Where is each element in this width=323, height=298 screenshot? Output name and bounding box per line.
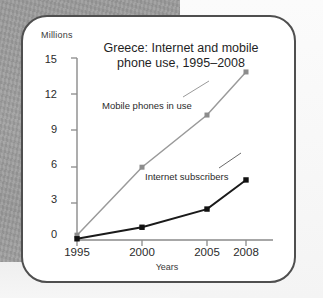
series-line-mobile-phones [77, 72, 246, 235]
data-point-2000 [139, 225, 144, 230]
series-markers-internet-subscribers [74, 177, 248, 241]
chart-card: Millions Greece: Internet and mobile pho… [21, 15, 296, 283]
data-point-2000 [140, 165, 145, 170]
leader-line-internet-subscribers [219, 153, 241, 168]
plot-area [23, 17, 298, 285]
chart-screenshot: Millions Greece: Internet and mobile pho… [0, 0, 323, 298]
data-point-2008 [244, 69, 249, 74]
data-point-2005 [205, 113, 210, 118]
data-point-2005 [204, 206, 209, 211]
data-point-1995 [74, 236, 79, 241]
leader-line-mobile-phones [183, 81, 209, 97]
series-markers-mobile-phones [75, 69, 249, 237]
data-point-2008 [243, 177, 248, 182]
